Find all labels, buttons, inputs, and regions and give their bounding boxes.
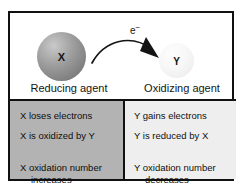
table-row: X is oxidized by Y [10, 130, 123, 142]
table-row-text-first: X oxidation number [20, 162, 102, 173]
sphere-x: X [37, 32, 86, 81]
electron-label: e− [115, 25, 155, 36]
table-row-text-first: Y oxidation number [134, 162, 216, 173]
table-row: X oxidation number increases [10, 150, 123, 189]
figure-frame: X Y e− Reducing agent Oxidizing agent [8, 11, 234, 181]
table-cell-reducing-agent: X loses electrons X is oxidized by Y X o… [10, 101, 123, 179]
table-cell-oxidizing-agent: Y gains electrons Y is reduced by X Y ox… [125, 101, 236, 179]
caption-oxidizing-agent: Oxidizing agent [128, 82, 236, 94]
table-row: Y oxidation number decreases [125, 150, 236, 189]
electron-charge: − [135, 23, 140, 32]
caption-reducing-agent: Reducing agent [10, 82, 128, 94]
table-row-text-second: decreases [134, 174, 236, 186]
table-row-text-second: increases [20, 174, 123, 186]
table-row: Y gains electrons [125, 110, 236, 122]
table-row: Y is reduced by X [125, 130, 236, 142]
diagram-area: X Y e− Reducing agent Oxidizing agent [10, 13, 232, 99]
redox-diagram-figure: X Y e− Reducing agent Oxidizing agent [0, 0, 242, 189]
table-row: X loses electrons [10, 110, 123, 122]
sphere-x-label: X [37, 51, 86, 63]
